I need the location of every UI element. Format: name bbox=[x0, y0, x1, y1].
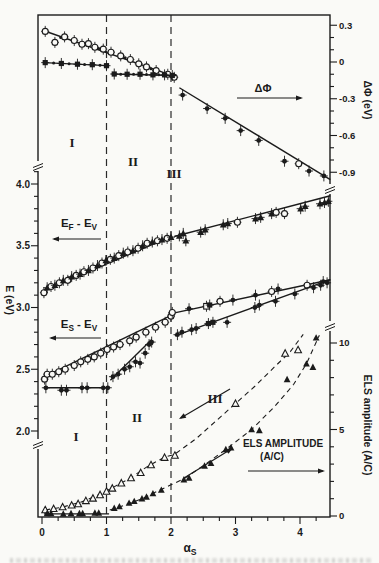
svg-text:-0.3: -0.3 bbox=[339, 93, 355, 104]
svg-text:2.0: 2.0 bbox=[16, 426, 30, 437]
svg-text:3.0: 3.0 bbox=[16, 302, 30, 313]
svg-text:10: 10 bbox=[339, 337, 350, 348]
svg-text:2: 2 bbox=[168, 527, 174, 538]
region-label-III: III bbox=[166, 166, 181, 181]
svg-text:5: 5 bbox=[339, 424, 345, 435]
svg-text:-0.9: -0.9 bbox=[339, 167, 355, 178]
svg-text:0: 0 bbox=[339, 56, 344, 67]
region-label-I: I bbox=[69, 135, 74, 150]
y-axis-label-E: E (eV) bbox=[4, 285, 16, 315]
svg-text:4: 4 bbox=[297, 527, 303, 538]
region-label-I: I bbox=[73, 429, 78, 444]
svg-text:3.5: 3.5 bbox=[16, 240, 30, 251]
els-amplitude-label-line2: (A/C) bbox=[260, 451, 284, 462]
y-axis-label-els: ELS amplitude (A/C) bbox=[362, 375, 374, 476]
region-label-III: III bbox=[207, 391, 222, 406]
svg-text:-0.6: -0.6 bbox=[339, 130, 355, 141]
svg-text:0: 0 bbox=[39, 527, 45, 538]
els-amplitude-label-line1: ELS AMPLITUDE bbox=[243, 438, 324, 449]
caption-fragment bbox=[10, 558, 373, 563]
chart-canvas: 012344.03.53.02.52.00.30-0.3-0.6-0.91050… bbox=[0, 0, 379, 563]
svg-text:2.5: 2.5 bbox=[16, 364, 30, 375]
region-label-II: II bbox=[128, 154, 138, 169]
y-axis-label-dphi: ΔΦ (eV) bbox=[362, 81, 374, 120]
svg-text:4.0: 4.0 bbox=[16, 179, 30, 190]
svg-text:3: 3 bbox=[233, 527, 239, 538]
delta-phi-label: ΔΦ bbox=[255, 82, 272, 94]
svg-text:0.3: 0.3 bbox=[339, 20, 352, 31]
svg-text:0: 0 bbox=[339, 510, 344, 521]
region-label-II: II bbox=[132, 410, 142, 425]
svg-text:1: 1 bbox=[104, 527, 110, 538]
scanned-figure: 012344.03.53.02.52.00.30-0.3-0.6-0.91050… bbox=[0, 0, 379, 563]
